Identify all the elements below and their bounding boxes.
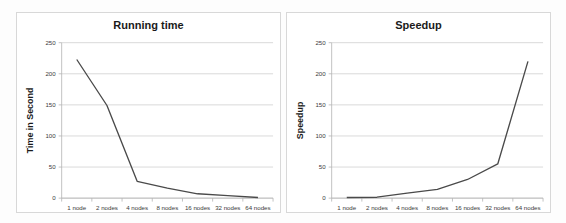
- y-tick-label: 150: [45, 101, 56, 108]
- y-tick-label: 250: [45, 39, 56, 46]
- y-axis-label: Speedup: [295, 101, 305, 139]
- y-tick-label: 150: [315, 101, 326, 108]
- x-tick-label: 16 nodes: [455, 204, 480, 211]
- y-tick-label: 250: [315, 39, 326, 46]
- figure-canvas: Running time 0501001502002501 node2 node…: [0, 0, 566, 223]
- x-tick-label: 1 node: [337, 204, 356, 211]
- y-tick-label: 200: [315, 70, 326, 77]
- y-tick-label: 200: [45, 70, 56, 77]
- y-axis-label: Time in Second: [25, 88, 35, 154]
- chart-panel-running-time: Running time 0501001502002501 node2 node…: [16, 12, 281, 213]
- x-tick-label: 32 nodes: [485, 204, 510, 211]
- x-tick-label: 64 nodes: [515, 204, 540, 211]
- chart-running-time: 0501001502002501 node2 nodes4 nodes8 nod…: [17, 13, 280, 212]
- chart-panel-speedup: Speedup 0501001502002501 node2 nodes4 no…: [286, 12, 551, 213]
- y-tick-label: 0: [52, 194, 56, 201]
- x-tick-label: 1 node: [67, 204, 86, 211]
- x-tick-label: 4 nodes: [396, 204, 418, 211]
- x-tick-label: 8 nodes: [426, 204, 448, 211]
- x-tick-label: 2 nodes: [96, 204, 118, 211]
- x-tick-label: 32 nodes: [215, 204, 240, 211]
- x-tick-label: 64 nodes: [245, 204, 270, 211]
- data-series-line: [77, 59, 258, 197]
- x-tick-label: 16 nodes: [185, 204, 210, 211]
- y-tick-label: 100: [315, 132, 326, 139]
- x-tick-label: 2 nodes: [366, 204, 388, 211]
- data-series-line: [347, 61, 528, 197]
- y-tick-label: 100: [45, 132, 56, 139]
- y-tick-label: 0: [322, 194, 326, 201]
- x-tick-label: 8 nodes: [156, 204, 178, 211]
- x-tick-label: 4 nodes: [126, 204, 148, 211]
- chart-speedup: 0501001502002501 node2 nodes4 nodes8 nod…: [287, 13, 550, 212]
- y-tick-label: 50: [319, 163, 326, 170]
- y-tick-label: 50: [49, 163, 56, 170]
